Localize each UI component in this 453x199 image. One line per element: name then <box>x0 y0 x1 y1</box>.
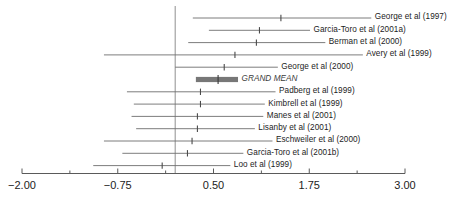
study-label: George et al (1997) <box>375 13 447 21</box>
study-label: Loo et al (1999) <box>234 161 292 169</box>
study-label: Eschweiler et al (2000) <box>276 136 360 144</box>
x-axis-tick-label: −2.00 <box>8 180 36 191</box>
x-axis-tick-label: 0.50 <box>203 180 224 191</box>
study-label: Lisanby et al (2001) <box>258 124 331 132</box>
summary-label: GRAND MEAN <box>242 75 298 83</box>
study-label: Avery et al (1999) <box>366 50 431 58</box>
study-label: Padberg et al (1999) <box>279 87 355 95</box>
x-axis-tick-label: 1.75 <box>299 180 320 191</box>
forest-plot: George et al (1997)Garcia-Toro et al (20… <box>0 0 453 199</box>
study-label: Berman et al (2000) <box>329 38 402 46</box>
study-label: Garcia-Toro et al (2001b) <box>247 149 339 157</box>
study-label: Kimbrell et al (1999) <box>268 100 342 108</box>
study-label: George et al (2000) <box>281 63 353 71</box>
x-axis-tick-label: −0.75 <box>104 180 132 191</box>
study-label: Manes et al (2001) <box>267 112 336 120</box>
summary-bar <box>196 77 238 82</box>
x-axis-tick-label: 3.00 <box>394 180 415 191</box>
study-label: Garcia-Toro et al (2001a) <box>314 26 406 34</box>
